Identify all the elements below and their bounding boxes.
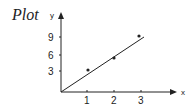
x-tick-label-3: 3	[138, 95, 144, 105]
x-tick-label-1: 1	[84, 95, 90, 105]
x-axis-arrow-icon	[170, 89, 177, 95]
y-tick-label-3: 3	[48, 66, 54, 77]
y-tick-label-9: 9	[48, 32, 54, 43]
plot-area: y x 9 6 3 1 2 3	[0, 0, 192, 105]
x-tick-label-2: 2	[111, 95, 117, 105]
y-axis-arrow-icon	[58, 12, 64, 19]
fit-line	[61, 37, 144, 92]
data-point	[112, 56, 115, 59]
data-point	[137, 34, 140, 37]
y-axis-label: y	[50, 11, 54, 20]
y-tick-label-6: 6	[48, 50, 54, 61]
x-axis-label: x	[181, 88, 185, 97]
data-point	[86, 68, 89, 71]
